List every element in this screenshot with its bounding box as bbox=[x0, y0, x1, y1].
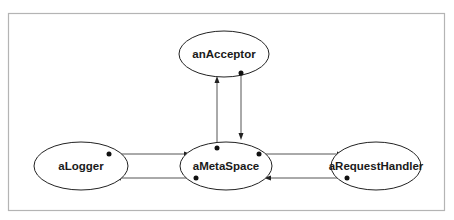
edge-anacceptor-to-ametaspace bbox=[239, 71, 244, 141]
anchor-dot-icon bbox=[257, 152, 262, 157]
collaboration-diagram: anAcceptor aLogger aMetaSpace aRequestHa… bbox=[0, 0, 454, 220]
node-label: aRequestHandler bbox=[329, 160, 424, 172]
anchor-dot-icon bbox=[107, 152, 112, 157]
node-alogger: aLogger bbox=[34, 142, 128, 190]
node-label: aMetaSpace bbox=[193, 160, 259, 172]
node-anacceptor: anAcceptor bbox=[179, 31, 269, 77]
node-label: anAcceptor bbox=[192, 48, 256, 60]
anchor-dot-icon bbox=[239, 71, 244, 76]
anchor-dot-icon bbox=[194, 176, 199, 181]
anchor-dot-icon bbox=[215, 146, 220, 151]
arrowhead-icon bbox=[239, 133, 244, 140]
node-ametaspace: aMetaSpace bbox=[180, 142, 272, 190]
node-label: aLogger bbox=[58, 160, 104, 172]
anchor-dot-icon bbox=[345, 176, 350, 181]
node-arequesthandler: aRequestHandler bbox=[329, 142, 424, 190]
edge-ametaspace-to-arequesthandler bbox=[257, 152, 345, 157]
edge-ametaspace-to-anacceptor bbox=[215, 76, 220, 151]
